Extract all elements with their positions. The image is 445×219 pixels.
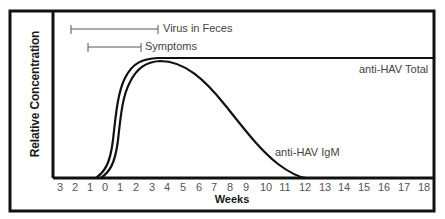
x-tick: 2: [72, 181, 78, 193]
x-tick: 10: [260, 181, 272, 193]
x-tick: 1: [87, 181, 93, 193]
x-tick: 5: [180, 181, 186, 193]
x-tick: 3: [57, 181, 63, 193]
x-tick: 7: [211, 181, 217, 193]
symptoms-label: Symptoms: [145, 40, 197, 52]
x-tick: 18: [418, 181, 430, 193]
y-axis-label: Relative Concentration: [20, 10, 50, 178]
x-tick: 11: [279, 181, 290, 193]
x-tick: 15: [358, 181, 370, 193]
symptoms-interval: [88, 43, 141, 52]
x-tick: 6: [196, 181, 202, 193]
x-tick: 1: [117, 181, 123, 193]
anti-hav-igm-label: anti-HAV IgM: [275, 146, 340, 158]
x-tick: 4: [164, 181, 170, 193]
hav-serology-chart: Relative Concentration Virus in Feces Sy…: [0, 0, 445, 219]
x-tick: 9: [243, 181, 249, 193]
virus-in-feces-label: Virus in Feces: [163, 22, 233, 34]
x-tick: 12: [299, 181, 311, 193]
x-tick: 14: [338, 181, 350, 193]
x-tick: 13: [319, 181, 331, 193]
x-tick: 17: [398, 181, 410, 193]
y-axis-label-text: Relative Concentration: [28, 31, 42, 157]
anti-hav-total-label: anti-HAV Total: [359, 63, 428, 75]
x-tick: 0: [102, 181, 108, 193]
x-tick: 3: [149, 181, 155, 193]
anti-hav-igm-curve: [101, 61, 306, 178]
x-tick: 16: [378, 181, 390, 193]
anti-hav-total-curve: [96, 58, 434, 178]
virus-in-feces-interval: [71, 25, 158, 34]
x-axis-label: Weeks: [215, 193, 250, 205]
x-tick: 8: [227, 181, 233, 193]
x-tick: 2: [133, 181, 139, 193]
